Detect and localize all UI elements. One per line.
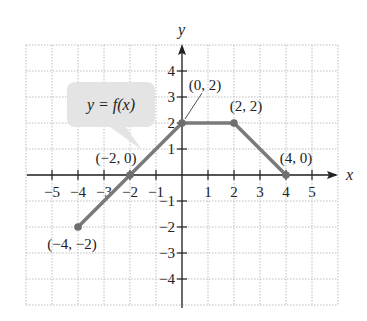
point-label: (0, 2) xyxy=(189,77,222,94)
y-tick-label: −3 xyxy=(159,245,175,261)
x-tick-label: 4 xyxy=(282,184,290,200)
y-tick-label: 1 xyxy=(168,141,176,157)
y-tick-label: 2 xyxy=(168,115,176,131)
y-tick-label: −2 xyxy=(159,219,175,235)
point-label: (−2, 0) xyxy=(96,150,137,167)
x-tick-label: −2 xyxy=(122,184,138,200)
x-tick-label: 2 xyxy=(230,184,238,200)
point-label: (−4, −2) xyxy=(47,236,96,253)
x-tick-label: 3 xyxy=(256,184,264,200)
leader-line xyxy=(185,93,202,119)
data-point xyxy=(74,223,82,231)
x-tick-label: −5 xyxy=(44,184,60,200)
y-axis-label: y xyxy=(176,21,186,39)
y-tick-label: 3 xyxy=(168,89,176,105)
y-tick-label: −1 xyxy=(159,193,175,209)
x-tick-label: 1 xyxy=(204,184,212,200)
data-point xyxy=(126,171,134,179)
y-tick-label: −4 xyxy=(159,271,175,287)
data-point xyxy=(230,119,238,127)
function-graph: y = f(x)xy−5−4−3−2−112345−4−3−2−11234(−4… xyxy=(0,0,367,321)
callout-tail xyxy=(110,127,142,150)
point-label: (2, 2) xyxy=(230,98,263,115)
x-axis-label: x xyxy=(345,166,353,183)
callout-label: y = f(x) xyxy=(85,96,135,114)
data-point xyxy=(282,171,290,179)
y-tick-label: 4 xyxy=(168,63,176,79)
data-point xyxy=(178,119,186,127)
x-tick-label: 5 xyxy=(308,184,316,200)
x-tick-label: −4 xyxy=(70,184,86,200)
point-label: (4, 0) xyxy=(280,150,313,167)
